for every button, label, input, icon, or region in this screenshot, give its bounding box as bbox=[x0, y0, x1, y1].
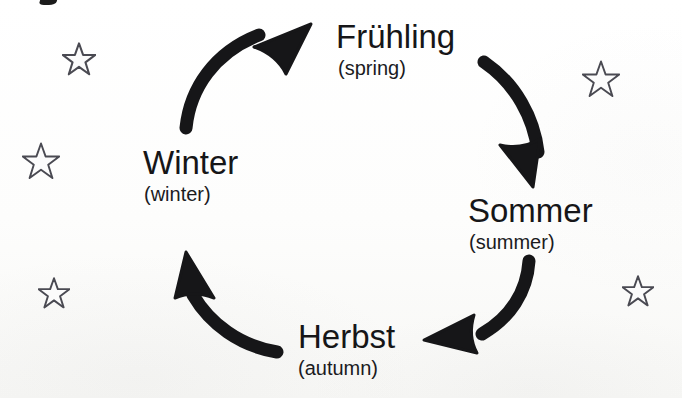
season-name-english: (winter) bbox=[144, 184, 238, 204]
star-icon bbox=[622, 275, 654, 307]
arrow-fruehling-to-sommer bbox=[484, 62, 540, 187]
season-name-english: (autumn) bbox=[298, 358, 395, 378]
seasons-cycle-diagram: Frühling (spring) Sommer (summer) Herbst… bbox=[0, 0, 682, 398]
season-name-german: Winter bbox=[143, 146, 238, 179]
season-name-german: Sommer bbox=[468, 194, 593, 227]
season-name-german: Frühling bbox=[336, 20, 455, 53]
arrow-sommer-to-herbst bbox=[424, 261, 529, 353]
season-label-fruehling: Frühling (spring) bbox=[336, 20, 455, 78]
star-icon bbox=[582, 60, 620, 98]
season-name-english: (spring) bbox=[338, 58, 455, 78]
season-name-german: Herbst bbox=[298, 320, 395, 353]
arrow-winter-to-fruehling bbox=[186, 24, 311, 128]
season-label-winter: Winter (winter) bbox=[143, 146, 238, 204]
season-label-herbst: Herbst (autumn) bbox=[298, 320, 395, 378]
star-icon bbox=[22, 142, 60, 180]
star-icon bbox=[62, 42, 96, 76]
arrow-herbst-to-winter bbox=[175, 252, 277, 352]
star-icon bbox=[38, 277, 70, 309]
season-name-english: (summer) bbox=[469, 232, 593, 252]
season-label-sommer: Sommer (summer) bbox=[468, 194, 593, 252]
